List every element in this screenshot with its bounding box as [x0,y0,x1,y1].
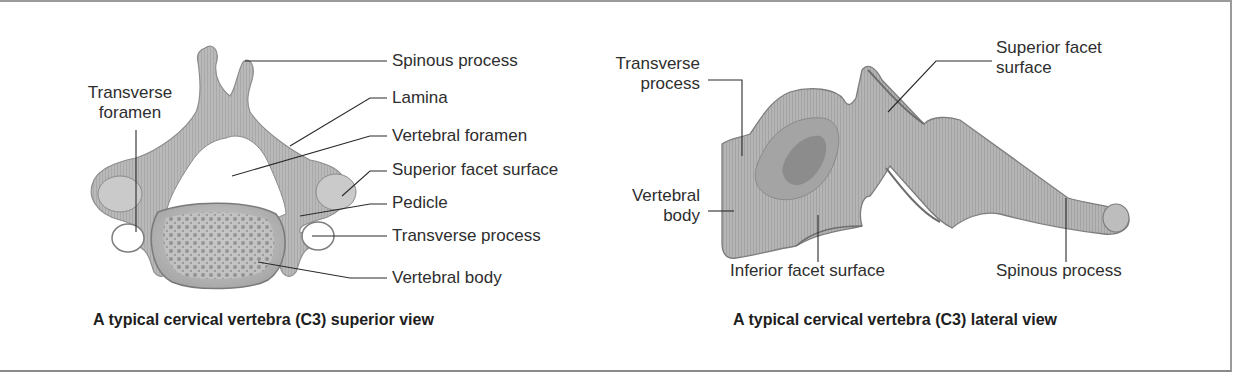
lateral-view-panel: Transverse process Superior facet surfac… [600,0,1236,370]
label-transverse-process: Transverse process [392,226,541,246]
label-transverse-process-lateral: Transverse process [600,54,700,94]
label-vertebral-body: Vertebral body [392,268,502,288]
label-line: body [600,206,700,226]
label-line: Vertebral [600,186,700,206]
label-spinous-process: Spinous process [392,51,518,71]
label-inferior-facet-surface: Inferior facet surface [730,261,885,281]
label-superior-facet-surface-lateral: Superior facet surface [996,38,1102,78]
superior-view-panel: Transverse foramen Spinous process Lamin… [0,0,610,370]
label-line: Superior facet [996,38,1102,58]
label-line: Transverse [600,54,700,74]
label-spinous-process-lateral: Spinous process [996,261,1122,281]
label-superior-facet-surface: Superior facet surface [392,160,558,180]
label-vertebral-foramen: Vertebral foramen [392,126,527,146]
label-line: surface [996,58,1102,78]
caption-lateral-view: A typical cervical vertebra (C3) lateral… [733,311,1057,329]
label-pedicle: Pedicle [392,193,448,213]
label-lamina: Lamina [392,88,448,108]
label-vertebral-body-lateral: Vertebral body [600,186,700,226]
caption-superior-view: A typical cervical vertebra (C3) superio… [93,311,434,329]
label-transverse-foramen: Transverse foramen [84,83,176,123]
label-line: Transverse [84,83,176,103]
label-line: foramen [84,103,176,123]
label-line: process [600,74,700,94]
